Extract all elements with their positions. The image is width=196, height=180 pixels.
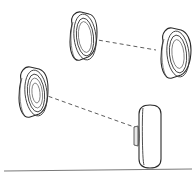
wheel-front-left xyxy=(70,12,98,61)
axle-rear-dashed-line xyxy=(42,94,137,128)
wheel-rear-right-hub-stub xyxy=(134,126,138,146)
wheel-rear-right xyxy=(134,105,161,168)
axle-rear xyxy=(42,94,137,128)
ground-line xyxy=(4,169,192,171)
axle-front-dashed-line xyxy=(92,39,156,50)
wheel-rear-left xyxy=(19,67,49,117)
wheel-diagram-figure: Wheel and axle assembly line drawing xyxy=(0,0,196,180)
wheel-diagram-canvas xyxy=(0,0,196,180)
wheel-front-right xyxy=(161,28,191,78)
axle-front xyxy=(92,39,156,50)
